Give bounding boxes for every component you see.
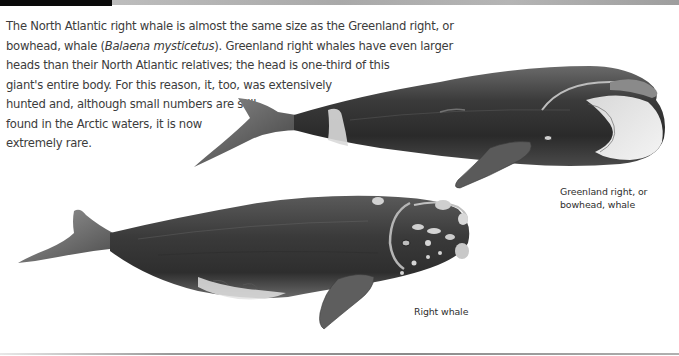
scientific-name: Balaena mysticetus	[105, 39, 215, 53]
label-right-whale: Right whale	[414, 306, 468, 319]
text-line-2: bowhead, whale (Balaena mysticetus). Gre…	[6, 37, 426, 57]
header-bar-rule	[112, 0, 679, 5]
bowhead-whale-illustration	[190, 60, 670, 195]
bottom-rule	[0, 353, 679, 355]
label-bowhead-whale: Greenland right, or bowhead, whale	[560, 186, 647, 211]
header-bar	[0, 0, 679, 6]
header-bar-section-tab	[0, 0, 112, 6]
text-line-1: The North Atlantic right whale is almost…	[6, 17, 426, 37]
